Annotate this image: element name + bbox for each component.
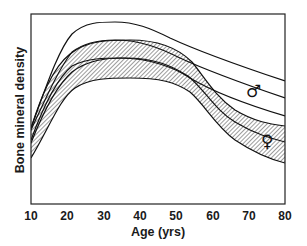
male-symbol-icon: ♂ xyxy=(246,81,261,101)
x-tick: 70 xyxy=(242,209,256,223)
x-tick: 50 xyxy=(169,209,183,223)
x-axis-ticks: 10 20 30 40 50 60 70 80 xyxy=(24,209,292,223)
female-symbol-icon: ♀ xyxy=(261,131,273,151)
x-tick: 20 xyxy=(60,209,74,223)
x-tick: 10 xyxy=(24,209,38,223)
x-tick: 40 xyxy=(133,209,147,223)
y-axis-label: Bone mineral density xyxy=(13,47,27,173)
x-tick: 80 xyxy=(278,209,292,223)
x-tick: 30 xyxy=(97,209,111,223)
x-axis-label: Age (yrs) xyxy=(131,225,185,239)
x-tick: 60 xyxy=(206,209,220,223)
bone-density-chart: ♂ ♀ 10 20 30 40 50 60 70 80 Age (yrs) Bo… xyxy=(0,0,307,246)
plot-frame xyxy=(31,14,285,204)
female-range-band xyxy=(31,40,285,163)
